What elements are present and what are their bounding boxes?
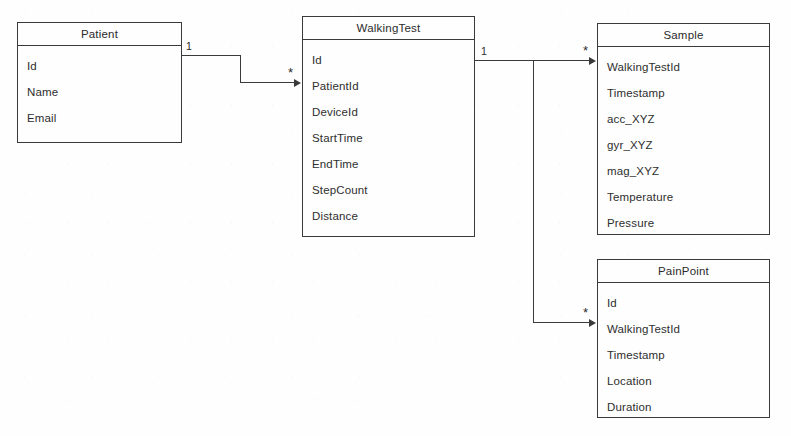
- entity-sample-attributes: WalkingTestId Timestamp acc_XYZ gyr_XYZ …: [598, 47, 769, 236]
- attribute-row: Duration: [598, 394, 769, 420]
- entity-patient-title: Patient: [18, 23, 181, 46]
- attribute-row: DeviceId: [303, 99, 474, 125]
- attribute-row: Timestamp: [598, 80, 769, 106]
- entity-walkingtest-title: WalkingTest: [303, 17, 474, 40]
- cardinality-walkingtest-one: 1: [481, 46, 487, 57]
- attribute-row: StartTime: [303, 125, 474, 151]
- attribute-row: Id: [598, 290, 769, 316]
- attribute-row: Distance: [303, 203, 474, 229]
- entity-patient-attributes: Id Name Email: [18, 46, 181, 131]
- attribute-row: Id: [18, 53, 181, 79]
- attribute-row: Name: [18, 79, 181, 105]
- attribute-row: WalkingTestId: [598, 316, 769, 342]
- entity-painpoint[interactable]: PainPoint Id WalkingTestId Timestamp Loc…: [597, 259, 770, 418]
- edge-walkingtest-painpoint-segment-2: [533, 322, 590, 323]
- entity-walkingtest[interactable]: WalkingTest Id PatientId DeviceId StartT…: [302, 16, 475, 237]
- entity-painpoint-title: PainPoint: [598, 260, 769, 283]
- entity-painpoint-attributes: Id WalkingTestId Timestamp Location Dura…: [598, 283, 769, 420]
- entity-walkingtest-attributes: Id PatientId DeviceId StartTime EndTime …: [303, 40, 474, 229]
- attribute-row: EndTime: [303, 151, 474, 177]
- arrowhead-painpoint: [589, 319, 596, 327]
- attribute-row: Timestamp: [598, 342, 769, 368]
- attribute-row: Location: [598, 368, 769, 394]
- edge-patient-walkingtest-segment-1: [182, 55, 241, 56]
- attribute-row: Email: [18, 105, 181, 131]
- cardinality-patient-one: 1: [186, 41, 192, 52]
- attribute-row: gyr_XYZ: [598, 132, 769, 158]
- edge-patient-walkingtest-segment-2: [240, 55, 241, 83]
- edge-walkingtest-painpoint-segment-1: [533, 60, 534, 323]
- entity-sample[interactable]: Sample WalkingTestId Timestamp acc_XYZ g…: [597, 23, 770, 235]
- er-diagram-canvas: Patient Id Name Email WalkingTest Id Pat…: [0, 0, 791, 436]
- edge-patient-walkingtest-segment-3: [240, 82, 295, 83]
- entity-patient[interactable]: Patient Id Name Email: [17, 22, 182, 143]
- attribute-row: acc_XYZ: [598, 106, 769, 132]
- attribute-row: mag_XYZ: [598, 158, 769, 184]
- arrowhead-walkingtest: [294, 79, 301, 87]
- arrowhead-sample: [589, 57, 596, 65]
- attribute-row: Pressure: [598, 210, 769, 236]
- attribute-row: Id: [303, 47, 474, 73]
- entity-sample-title: Sample: [598, 24, 769, 47]
- cardinality-painpoint-many: *: [583, 306, 588, 319]
- attribute-row: Temperature: [598, 184, 769, 210]
- attribute-row: StepCount: [303, 177, 474, 203]
- attribute-row: WalkingTestId: [598, 54, 769, 80]
- cardinality-walkingtest-many: *: [288, 66, 293, 79]
- cardinality-sample-many: *: [583, 44, 588, 57]
- attribute-row: PatientId: [303, 73, 474, 99]
